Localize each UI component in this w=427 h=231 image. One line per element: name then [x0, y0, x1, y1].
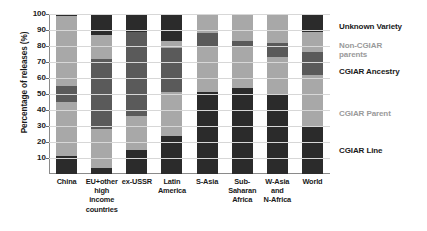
bar-segment — [302, 75, 323, 126]
bar-segment — [91, 168, 112, 174]
y-tick-70: 70 — [22, 58, 46, 66]
bar-segment — [91, 14, 112, 35]
bar-segment — [197, 33, 218, 46]
gridline — [49, 142, 330, 143]
gridline — [49, 78, 330, 79]
legend-entry-unknown-variety[interactable]: Unknown Variety — [339, 22, 402, 31]
gridline — [49, 46, 330, 47]
y-tickmark — [46, 94, 49, 95]
x-tick-label: Sub-Saharan Africa — [225, 177, 260, 205]
bar-segment — [232, 88, 253, 174]
bar-segment — [126, 14, 147, 32]
bar-segment — [56, 156, 77, 174]
y-tick-80: 80 — [22, 42, 46, 50]
y-tick-90: 90 — [22, 26, 46, 34]
bar-segment — [56, 16, 77, 86]
bar-segment — [126, 150, 147, 174]
legend-entry-non-cgiar-parents[interactable]: Non-CGIAR parents — [339, 41, 382, 60]
gridline — [49, 158, 330, 159]
bar-segment — [267, 94, 288, 174]
y-tick-60: 60 — [22, 74, 46, 82]
y-tick-50: 50 — [22, 90, 46, 98]
y-tickmark — [46, 14, 49, 15]
y-tickmark — [46, 126, 49, 127]
y-tickmark — [46, 158, 49, 159]
bar-segment — [232, 46, 253, 88]
bar-segment — [161, 14, 182, 41]
bar-segment — [91, 129, 112, 167]
gridline — [49, 126, 330, 127]
plot-area — [49, 14, 330, 174]
legend-entry-cgiar-line[interactable]: CGIAR Line — [339, 146, 382, 155]
legend-entry-cgiar-parent[interactable]: CGIAR Parent — [339, 109, 391, 118]
x-tick-label: W-Asia and N-Africa — [260, 177, 295, 205]
y-tickmark — [46, 78, 49, 79]
bar-segment — [302, 32, 323, 53]
bar-segment — [161, 48, 182, 93]
bar-segment — [161, 92, 182, 135]
y-tick-10: 10 — [22, 154, 46, 162]
y-tick-20: 20 — [22, 138, 46, 146]
gridline — [49, 94, 330, 95]
y-tick-40: 40 — [22, 106, 46, 114]
gridline — [49, 62, 330, 63]
y-tick-30: 30 — [22, 122, 46, 130]
bar-segment — [267, 14, 288, 43]
bar-segment — [302, 126, 323, 174]
bar-segment — [232, 14, 253, 41]
gridline — [49, 30, 330, 31]
x-tick-label: World — [295, 177, 330, 186]
bar-segment — [197, 46, 218, 92]
x-axis-tick-labels: ChinaEU+other high income countriesex-US… — [49, 177, 330, 231]
y-tickmark — [46, 110, 49, 111]
gridline — [49, 14, 330, 15]
y-tickmark — [46, 46, 49, 47]
y-tick-100: 100 — [22, 10, 46, 18]
legend-entry-cgiar-ancestry[interactable]: CGIAR Ancestry — [339, 67, 400, 76]
x-tick-label: ex-USSR — [119, 177, 154, 186]
bar-segment — [302, 14, 323, 32]
x-tick-label: S-Asia — [190, 177, 225, 186]
bar-segment — [126, 116, 147, 150]
bar-segment — [267, 43, 288, 57]
y-axis-tick-labels: 102030405060708090100 — [22, 14, 46, 174]
x-tick-label: Latin America — [154, 177, 189, 195]
y-tickmark — [46, 142, 49, 143]
y-tickmark — [46, 30, 49, 31]
chart-legend: Unknown VarietyNon-CGIAR parentsCGIAR An… — [339, 10, 427, 180]
stacked-bar-chart: Percentage of releases (%) 1020304050607… — [0, 0, 427, 231]
bar-segment — [126, 32, 147, 117]
y-tickmark — [46, 62, 49, 63]
bar-segment — [302, 52, 323, 74]
x-tick-label: China — [49, 177, 84, 186]
bar-segment — [197, 92, 218, 174]
x-tick-label: EU+other high income countries — [84, 177, 119, 214]
gridline — [49, 110, 330, 111]
